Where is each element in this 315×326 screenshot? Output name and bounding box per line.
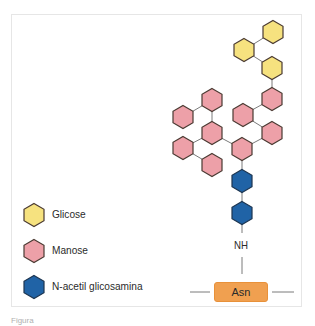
nh-linker-label: NH — [234, 239, 248, 251]
figure-caption: Figura — [11, 316, 34, 325]
glcnac-legend-icon — [24, 276, 44, 299]
glucose-hexagon — [263, 21, 283, 44]
glucose-hexagon — [234, 39, 254, 62]
mannose-residues — [173, 88, 282, 177]
mannose-legend-icon — [24, 240, 44, 263]
glycan-diagram — [0, 0, 315, 326]
mannose-hexagon — [202, 89, 222, 112]
glucose-legend-icon — [24, 204, 44, 227]
legend-icons — [24, 204, 44, 299]
mannose-hexagon — [173, 106, 193, 129]
glcnac-hexagon — [232, 202, 252, 225]
mannose-hexagon — [233, 104, 253, 127]
asn-residue-box: Asn — [214, 282, 268, 302]
mannose-hexagon — [232, 138, 252, 161]
mannose-hexagon — [173, 137, 193, 160]
glcnac-hexagon — [232, 170, 252, 193]
glucose-residues — [234, 21, 283, 80]
mannose-hexagon — [202, 154, 222, 177]
mannose-hexagon — [262, 88, 282, 111]
mannose-hexagon — [202, 122, 222, 145]
legend-label-glucose: Glicose — [52, 208, 86, 220]
glucose-hexagon — [262, 57, 282, 80]
mannose-hexagon — [262, 122, 282, 145]
legend-label-glcnac: N-acetil glicosamina — [52, 280, 143, 292]
legend-label-mannose: Manose — [52, 244, 88, 256]
